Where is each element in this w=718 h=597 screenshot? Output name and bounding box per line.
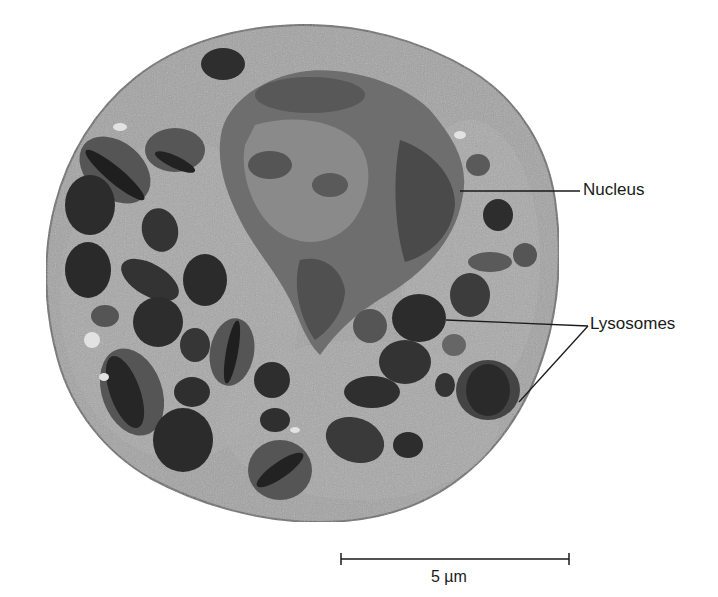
- cell-micrograph: [0, 0, 718, 597]
- scale-bar-label: 5 µm: [431, 568, 467, 586]
- nucleus-label: Nucleus: [583, 180, 644, 200]
- lysosomes-label: Lysosomes: [590, 314, 675, 334]
- scale-bar: [341, 553, 569, 565]
